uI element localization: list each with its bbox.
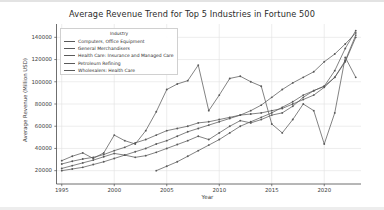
legend-title: Industry — [61, 31, 177, 36]
y-tick-label: 80000 — [6, 101, 52, 107]
legend-item-label: Health Care: Insurance and Managed Care — [78, 52, 174, 59]
legend-line-swatch — [64, 70, 75, 71]
x-tick-label: 2015 — [257, 187, 287, 193]
legend-item: Wholesalers: Health Care — [61, 67, 177, 74]
legend-line-swatch — [64, 63, 75, 64]
legend-item-label: Computers, Office Equipment — [78, 38, 145, 45]
x-tick-label: 2000 — [99, 187, 129, 193]
plot-area — [0, 2, 384, 210]
legend-item-label: General Merchandisers — [78, 45, 130, 52]
chart-figure: Average Revenue Trend for Top 5 Industri… — [0, 0, 384, 210]
chart-legend: Industry Computers, Office EquipmentGene… — [60, 28, 178, 75]
legend-line-swatch — [64, 48, 75, 49]
legend-line-swatch — [64, 41, 75, 42]
y-tick-label: 140000 — [6, 34, 52, 40]
legend-entries: Computers, Office EquipmentGeneral Merch… — [61, 38, 177, 74]
legend-item-label: Wholesalers: Health Care — [78, 67, 135, 74]
y-tick-label: 100000 — [6, 79, 52, 85]
x-tick-label: 2005 — [152, 187, 182, 193]
legend-line-swatch — [64, 55, 75, 56]
x-tick-label: 2010 — [204, 187, 234, 193]
y-tick-label: 20000 — [6, 167, 52, 173]
legend-item-label: Petroleum Refining — [78, 60, 121, 67]
legend-item: Computers, Office Equipment — [61, 38, 177, 45]
y-tick-label: 40000 — [6, 145, 52, 151]
y-tick-label: 60000 — [6, 123, 52, 129]
y-tick-label: 120000 — [6, 56, 52, 62]
legend-item: Petroleum Refining — [61, 59, 177, 66]
legend-item: General Merchandisers — [61, 45, 177, 52]
x-tick-label: 1995 — [47, 187, 77, 193]
x-tick-label: 2020 — [309, 187, 339, 193]
legend-item: Health Care: Insurance and Managed Care — [61, 52, 177, 59]
